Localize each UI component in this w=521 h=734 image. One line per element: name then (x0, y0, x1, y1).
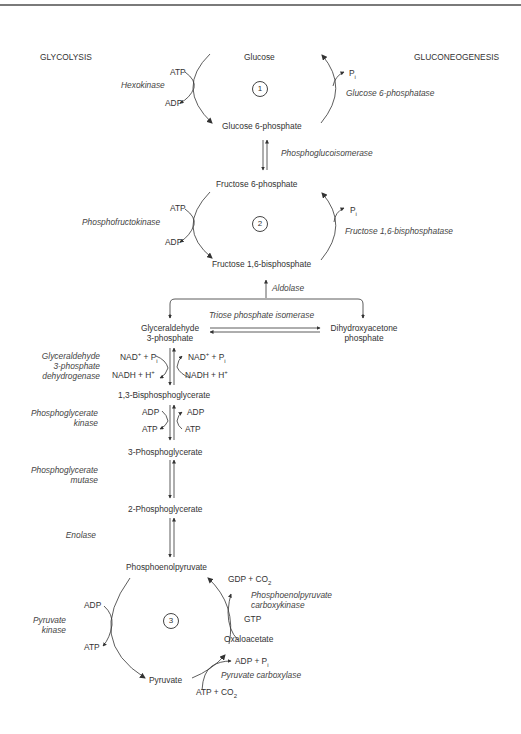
cycle-1-badge: 1 (252, 81, 268, 97)
metabolite-pyruvate: Pyruvate (149, 675, 182, 685)
pfk-arrow (193, 192, 212, 258)
cofactor-atp: ATP (170, 67, 186, 77)
enzyme-triose-phosphate-isomerase: Triose phosphate isomerase (209, 310, 314, 320)
metabolite-glucose-6-phosphate: Glucose 6-phosphate (222, 121, 302, 131)
cofactor-gtp: GTP (244, 614, 261, 624)
enzyme-phosphofructokinase: Phosphofructokinase (82, 217, 160, 227)
cofactor-atp: ATP (170, 203, 186, 213)
metabolite-glyceraldehyde-3-phosphate: Glyceraldehyde3-phosphate (135, 323, 205, 343)
cofactor-nadh-right: NADH + H+ (185, 370, 228, 380)
enzyme-aldolase: Aldolase (272, 283, 304, 293)
cofactor-atp-right: ATP (185, 424, 201, 434)
g6pase-arrow (321, 55, 336, 123)
gluconeogenesis-glycolysis-diagram: GLYCOLYSIS GLUCONEOGENESIS Glucose 1 ATP… (0, 0, 521, 734)
cofactor-nad-pi-right: NAD+ + Pi (188, 352, 226, 362)
enzyme-enolase: Enolase (18, 530, 96, 540)
metabolite-oxaloacetate: Oxaloacetate (224, 634, 273, 644)
cofactor-atp: ATP (84, 642, 100, 652)
enzyme-glucose-6-phosphatase: Glucose 6-phosphatase (346, 88, 434, 98)
enzyme-pepck: Phosphoenolpyruvatecarboxykinase (251, 590, 332, 610)
enzyme-gapdh: Glyceraldehyde3-phosphatedehydrogenase (20, 351, 100, 381)
metabolite-fructose-1-6-bisphosphate: Fructose 1,6-bisphosphate (212, 259, 311, 269)
enzyme-pyruvate-carboxylase: Pyruvate carboxylase (221, 670, 301, 680)
cofactor-atp-co2: ATP + CO2 (196, 687, 237, 697)
enzyme-phosphoglycerate-kinase: Phosphoglyceratekinase (18, 408, 98, 428)
cofactor-adp: ADP (84, 600, 101, 610)
cofactor-adp: ADP (165, 237, 182, 247)
cofactor-gdp-co2: GDP + CO2 (228, 574, 271, 584)
cycle-3-badge: 3 (163, 613, 179, 629)
metabolite-dihydroxyacetone-phosphate: Dihydroxyacetonephosphate (326, 323, 402, 343)
enzyme-hexokinase: Hexokinase (121, 80, 165, 90)
fbpase-arrow (321, 193, 336, 260)
cofactor-adp-right: ADP (187, 407, 204, 417)
cofactor-adp: ADP (165, 98, 182, 108)
enzyme-fructose-1-6-bisphosphatase: Fructose 1,6-bisphosphatase (345, 226, 453, 236)
cofactor-adp-pi: ADP + Pi (235, 656, 269, 666)
enzyme-phosphoglucoisomerase: Phosphoglucoisomerase (281, 148, 373, 158)
enzyme-phosphoglycerate-mutase: Phosphoglyceratemutase (18, 465, 98, 485)
metabolite-1-3-bisphosphoglycerate: 1,3-Bisphosphoglycerate (118, 390, 210, 400)
cofactor-nad-pi-left: NAD+ + Pi (120, 352, 158, 362)
cofactor-pi: Pi (349, 68, 356, 78)
enzyme-pyruvate-kinase: Pyruvatekinase (18, 615, 66, 635)
pyruvate-kinase-arrow (111, 578, 145, 678)
metabolite-glucose: Glucose (244, 52, 275, 62)
metabolite-phosphoenolpyruvate: Phosphoenolpyruvate (126, 562, 207, 572)
gluconeogenesis-header: GLUCONEOGENESIS (414, 52, 499, 62)
hexokinase-arrow (193, 54, 212, 123)
cycle-2-badge: 2 (252, 216, 268, 232)
cofactor-nadh-left: NADH + H+ (112, 370, 155, 380)
metabolite-fructose-6-phosphate: Fructose 6-phosphate (216, 179, 297, 189)
metabolite-2-phosphoglycerate: 2-Phosphoglycerate (128, 504, 203, 514)
cofactor-pi: Pi (350, 205, 357, 215)
metabolite-3-phosphoglycerate: 3-Phosphoglycerate (128, 447, 203, 457)
cofactor-adp-left: ADP (142, 407, 159, 417)
cofactor-atp-left: ATP (142, 424, 158, 434)
glycolysis-header: GLYCOLYSIS (40, 52, 92, 62)
